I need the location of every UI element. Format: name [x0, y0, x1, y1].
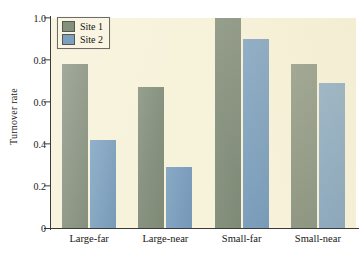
y-tick-label: 0: [41, 223, 46, 234]
bar-small-far-site-1: [215, 18, 241, 228]
y-axis-tick-labels: 00.20.40.60.81.0: [22, 0, 50, 258]
y-tick-mark: [44, 59, 51, 60]
y-tick-mark: [44, 101, 51, 102]
bar-small-far-site-2: [243, 39, 269, 228]
x-tick-label: Large-near: [142, 233, 188, 244]
x-tick-label: Large-far: [69, 233, 108, 244]
x-tick-label: Small-far: [222, 233, 262, 244]
bar-small-near-site-1: [291, 64, 317, 228]
legend-label-site-1: Site 1: [80, 22, 103, 32]
legend-swatch-site-1-icon: [62, 21, 75, 32]
x-tick-label: Small-near: [295, 233, 341, 244]
y-tick-mark: [44, 143, 51, 144]
bar-chart-figure: Turnover rate 00.20.40.60.81.0 Large-far…: [0, 0, 363, 258]
legend-swatch-site-2-icon: [62, 34, 75, 45]
bar-large-near-site-2: [166, 167, 192, 228]
legend-label-site-2: Site 2: [80, 35, 103, 45]
y-tick-mark: [44, 185, 51, 186]
y-axis-title: Turnover rate: [2, 0, 24, 232]
y-tick-mark: [44, 17, 51, 18]
plot-area: [51, 18, 356, 228]
x-axis-line: [44, 228, 359, 229]
legend: Site 1 Site 2: [57, 17, 110, 49]
legend-item-site-2: Site 2: [62, 34, 103, 45]
bar-large-near-site-1: [138, 87, 164, 228]
bar-large-far-site-1: [62, 64, 88, 228]
y-axis-title-text: Turnover rate: [8, 88, 19, 145]
bar-large-far-site-2: [90, 140, 116, 228]
bar-small-near-site-2: [319, 83, 345, 228]
legend-item-site-1: Site 1: [62, 21, 103, 32]
